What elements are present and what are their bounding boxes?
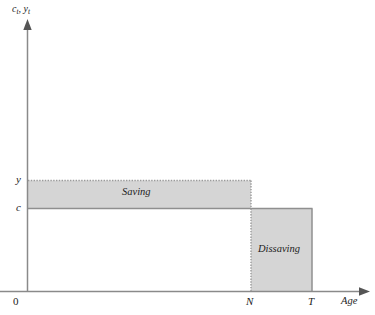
x-axis-arrowhead <box>359 287 370 295</box>
y-axis-arrowhead <box>23 19 31 30</box>
x-axis-title: Age <box>341 296 357 307</box>
y-tick-label-consumption: c <box>16 202 21 213</box>
lifecycle-consumption-chart: ct, yt y c 0 N T Age Saving Dissaving <box>0 0 375 315</box>
x-tick-label-n: N <box>246 296 253 307</box>
dissaving-region-label: Dissaving <box>258 244 300 255</box>
saving-region-label: Saving <box>122 187 151 198</box>
x-tick-label-origin: 0 <box>13 296 19 307</box>
y-axis-title-y-sub: t <box>28 7 30 16</box>
y-tick-label-income: y <box>16 174 21 185</box>
chart-canvas <box>0 0 375 315</box>
x-tick-label-t: T <box>308 296 314 307</box>
y-axis-title: ct, yt <box>12 4 30 15</box>
